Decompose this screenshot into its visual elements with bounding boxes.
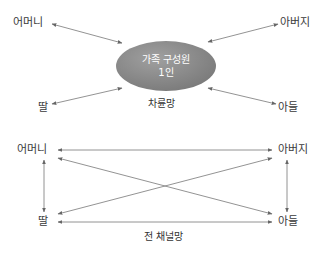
top-daughter-label: 딸 <box>38 102 48 114</box>
bottom-father-label: 아버지 <box>278 144 308 156</box>
top-mother-label: 어머니 <box>13 17 43 29</box>
bottom-daughter-label: 딸 <box>38 216 48 228</box>
top-father-label: 아버지 <box>280 17 310 29</box>
bottom-mother-label: 어머니 <box>17 144 47 156</box>
bottom-son-label: 아들 <box>278 216 298 228</box>
center-line1: 가족 구성원 <box>116 53 216 66</box>
center-node-label: 가족 구성원 1인 <box>116 53 216 79</box>
all-channel-network <box>44 150 287 222</box>
center-line2: 1인 <box>116 66 216 79</box>
all-channel-caption: 전 채널망 <box>144 231 183 243</box>
top-son-label: 아들 <box>278 102 298 114</box>
wheel-caption: 차륜망 <box>148 98 175 110</box>
